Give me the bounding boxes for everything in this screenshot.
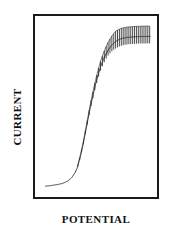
voltammogram-plot [35, 16, 161, 201]
figure-panel: CURRENT POTENTIAL [0, 0, 174, 234]
x-axis-label: POTENTIAL [33, 213, 159, 225]
current-trace [45, 26, 150, 186]
y-axis-label-text: CURRENT [11, 88, 23, 145]
plot-frame [33, 14, 159, 199]
